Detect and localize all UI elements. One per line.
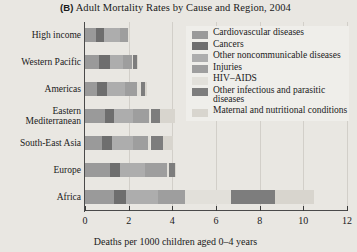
bar-segment[interactable]: [104, 28, 120, 42]
bar-segment[interactable]: [133, 136, 148, 150]
x-axis-tick-label: 12: [332, 215, 357, 226]
x-axis-tick: [172, 206, 173, 211]
bar-segment[interactable]: [137, 55, 138, 69]
legend-label: Maternal and nutritional conditions: [213, 106, 347, 116]
legend-swatch: [192, 65, 208, 73]
bar-segment[interactable]: [85, 28, 96, 42]
bar-segment[interactable]: [145, 163, 167, 177]
bar-segment[interactable]: [85, 82, 97, 96]
bar-segment[interactable]: [102, 136, 112, 150]
x-axis-tick-label: 10: [288, 215, 318, 226]
x-axis-tick-label: 8: [245, 215, 275, 226]
bar-segment[interactable]: [114, 190, 126, 204]
bar-segment[interactable]: [126, 190, 158, 204]
legend-item[interactable]: Cardiovascular diseases: [186, 28, 349, 39]
x-axis-title: Deaths per 1000 children aged 0–4 years: [0, 236, 351, 247]
legend-label: Other noncommunicable diseases: [213, 51, 341, 61]
bar-segment[interactable]: [120, 28, 128, 42]
bar-segment[interactable]: [85, 109, 105, 123]
x-axis-tick-label: 0: [70, 215, 100, 226]
x-axis-tick: [303, 206, 304, 211]
x-axis-tick-label: 6: [201, 215, 231, 226]
bar-segment[interactable]: [151, 109, 161, 123]
bar-segment[interactable]: [231, 190, 275, 204]
bar-segment[interactable]: [158, 190, 185, 204]
bar-segment[interactable]: [125, 82, 137, 96]
y-axis-label: South-East Asia: [0, 138, 81, 148]
y-axis-label: Eastern Mediterranean: [0, 107, 81, 126]
legend-swatch: [192, 88, 208, 96]
x-axis-tick-label: 4: [157, 215, 187, 226]
x-axis-tick: [216, 206, 217, 211]
legend-swatch: [192, 77, 208, 85]
bar-segment[interactable]: [114, 109, 133, 123]
bar-row[interactable]: [85, 163, 347, 177]
y-axis-label: High income: [0, 30, 81, 40]
legend-swatch: [192, 42, 208, 50]
chart-title-text: Adult Mortality Rates by Cause and Regio…: [76, 2, 291, 13]
y-axis-label: Africa: [0, 192, 81, 202]
x-axis-tick: [129, 206, 130, 211]
bar-segment[interactable]: [99, 55, 110, 69]
x-axis-tick: [260, 206, 261, 211]
x-axis-tick: [347, 206, 348, 211]
bar-segment[interactable]: [85, 163, 110, 177]
bar-segment[interactable]: [133, 109, 149, 123]
bar-segment[interactable]: [97, 82, 107, 96]
bar-segment[interactable]: [185, 190, 231, 204]
bar-segment[interactable]: [85, 190, 114, 204]
bar-segment[interactable]: [151, 136, 163, 150]
bar-segment[interactable]: [107, 82, 124, 96]
y-axis-label: Americas: [0, 84, 81, 94]
legend-item[interactable]: Other noncommunicable diseases: [186, 51, 349, 62]
bar-segment[interactable]: [145, 82, 147, 96]
bar-segment[interactable]: [275, 190, 314, 204]
legend-item[interactable]: Other infectious and parasitic diseases: [186, 86, 349, 106]
bar-row[interactable]: [85, 136, 347, 150]
y-axis-label: Europe: [0, 165, 81, 175]
bar-segment[interactable]: [120, 163, 145, 177]
x-axis-tick: [85, 206, 86, 211]
chart-title: (B) Adult Mortality Rates by Cause and R…: [0, 2, 351, 13]
x-axis-tick-label: 2: [114, 215, 144, 226]
legend-swatch: [192, 109, 208, 117]
bar-segment[interactable]: [85, 55, 99, 69]
legend-label: HIV–AIDS: [213, 74, 257, 84]
legend-label: Cardiovascular diseases: [213, 28, 304, 38]
legend-swatch: [192, 54, 208, 62]
legend-label: Cancers: [213, 40, 244, 50]
bar-segment[interactable]: [160, 109, 174, 123]
chart-legend: Cardiovascular diseasesCancersOther nonc…: [186, 26, 349, 121]
legend-item[interactable]: Maternal and nutritional conditions: [186, 106, 349, 117]
bar-segment[interactable]: [110, 55, 124, 69]
bar-segment[interactable]: [96, 28, 104, 42]
legend-item[interactable]: Cancers: [186, 40, 349, 51]
panel-letter: (B): [60, 2, 74, 13]
y-axis-label: Western Pacific: [0, 57, 81, 67]
bar-segment[interactable]: [105, 109, 115, 123]
bar-segment[interactable]: [163, 136, 174, 150]
bar-segment[interactable]: [112, 136, 133, 150]
bar-segment[interactable]: [175, 163, 176, 177]
legend-label: Other infectious and parasitic diseases: [213, 86, 349, 106]
legend-label: Injuries: [213, 63, 242, 73]
legend-item[interactable]: Injuries: [186, 63, 349, 74]
bar-row[interactable]: [85, 190, 347, 204]
bar-segment[interactable]: [123, 55, 131, 69]
legend-swatch: [192, 31, 208, 39]
bar-segment[interactable]: [85, 136, 102, 150]
legend-item[interactable]: HIV–AIDS: [186, 74, 349, 85]
bar-segment[interactable]: [110, 163, 120, 177]
